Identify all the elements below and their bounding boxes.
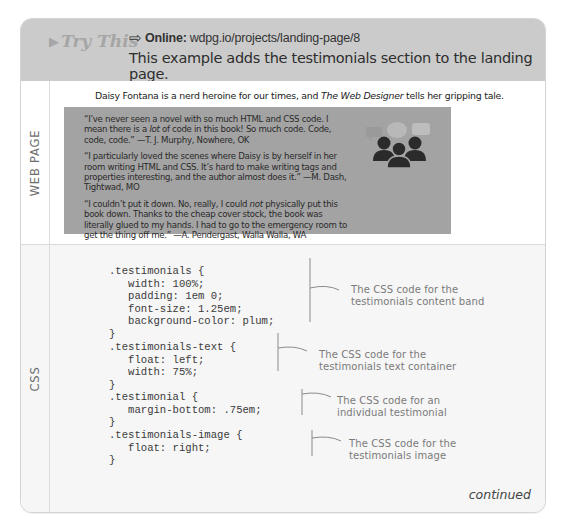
try-this-label: Try This <box>61 31 138 51</box>
code-block-testimonials-text: .testimonials-text { float: left; width:… <box>109 341 236 391</box>
web-page-label: WEB PAGE <box>28 129 42 196</box>
page-intro-text: Daisy Fontana is a nerd heroine for our … <box>95 90 504 101</box>
annotation-line: The CSS code for an <box>337 395 447 407</box>
annotation-testimonials-band: The CSS code for the testimonials conten… <box>351 284 484 307</box>
annotation-testimonials-text: The CSS code for the testimonials text c… <box>319 349 456 372</box>
play-triangle-icon: ▶ <box>49 34 59 49</box>
group-with-speech-bubbles-icon <box>364 119 434 169</box>
annotation-testimonials-image: The CSS code for the testimonials image <box>349 438 456 461</box>
testimonial-text: “I particularly loved the scenes where D… <box>84 151 346 192</box>
annotation-line: The CSS code for the <box>351 284 484 296</box>
annotation-line: testimonials content band <box>351 296 484 308</box>
try-this-header: ▶ Try This ⇨ Online: wdpg.io/projects/la… <box>21 19 545 81</box>
annotation-bracket-icon <box>301 387 341 417</box>
annotation-line: individual testimonial <box>337 407 447 419</box>
example-description: This example adds the testimonials secti… <box>129 50 545 82</box>
online-link-line: ⇨ Online: wdpg.io/projects/landing-page/… <box>129 30 360 45</box>
testimonial-text: “I couldn’t put it down. No, really, I c… <box>84 199 250 209</box>
css-row: CSS .testimonials { width: 100%; padding… <box>21 245 545 512</box>
annotation-line: testimonials image <box>349 450 456 462</box>
code-block-testimonial: .testimonial { margin-bottom: .75em; } <box>109 391 262 429</box>
testimonials-text: “I’ve never seen a novel with so much HT… <box>84 114 352 246</box>
css-label-column: CSS <box>21 245 50 512</box>
intro-text-start: Daisy Fontana is a nerd heroine for our … <box>95 90 321 101</box>
intro-text-end: tells her gripping tale. <box>403 90 503 101</box>
book-title: The Web Designer <box>321 90 403 101</box>
right-arrow-outline-icon: ⇨ <box>129 30 142 45</box>
testimonial: “I couldn’t put it down. No, really, I c… <box>84 199 352 241</box>
code-block-testimonials-image: .testimonials-image { float: right; } <box>109 429 243 467</box>
online-label: Online: <box>145 31 187 45</box>
css-label: CSS <box>28 366 42 391</box>
testimonials-band: “I’ve never seen a novel with so much HT… <box>64 107 451 234</box>
testimonial-emphasis: not <box>250 199 263 209</box>
testimonial: “I particularly loved the scenes where D… <box>84 151 352 193</box>
online-url-link[interactable]: wdpg.io/projects/landing-page/8 <box>190 31 360 45</box>
continued-label: continued <box>469 487 531 502</box>
try-this-box: ▶ Try This ⇨ Online: wdpg.io/projects/la… <box>20 18 546 513</box>
try-this-title: ▶ Try This <box>49 31 138 51</box>
annotation-line: The CSS code for the <box>319 349 456 361</box>
web-page-row: WEB PAGE Daisy Fontana is a nerd heroine… <box>21 81 545 245</box>
annotation-line: The CSS code for the <box>349 438 456 450</box>
testimonial-emphasis: lot <box>149 124 159 134</box>
annotation-testimonial: The CSS code for an individual testimoni… <box>337 395 447 418</box>
annotation-bracket-icon <box>311 428 351 458</box>
testimonial: “I’ve never seen a novel with so much HT… <box>84 114 352 145</box>
annotation-line: testimonials text container <box>319 361 456 373</box>
web-page-label-column: WEB PAGE <box>21 81 50 244</box>
code-block-testimonials: .testimonials { width: 100%; padding: 1e… <box>109 265 274 341</box>
annotation-bracket-icon <box>309 256 349 324</box>
annotation-bracket-icon <box>277 331 317 373</box>
